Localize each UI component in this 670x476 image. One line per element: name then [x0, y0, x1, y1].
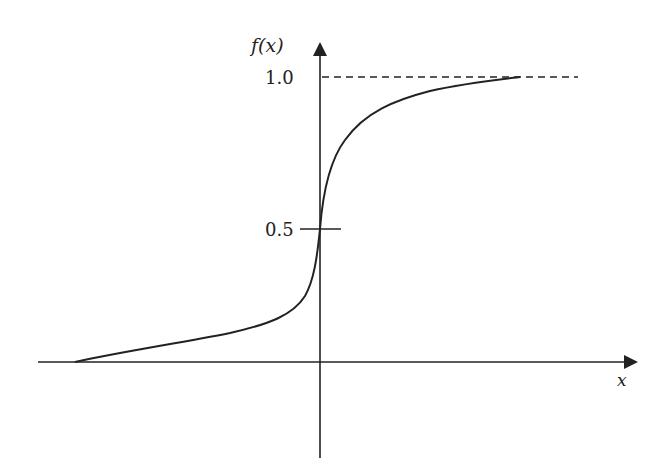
y-tick-label-0-5: 0.5: [265, 219, 294, 240]
plot-canvas: f(x) x 1.0 0.5: [0, 0, 670, 476]
y-tick-label-1-0: 1.0: [265, 67, 294, 88]
y-axis-label: f(x): [249, 34, 284, 56]
x-axis-label: x: [617, 370, 627, 390]
y-axis: [313, 42, 327, 458]
y-axis-arrow-icon: [313, 42, 327, 56]
x-axis-arrow-icon: [624, 355, 638, 369]
function-curve: [75, 77, 520, 362]
x-axis: [38, 355, 638, 369]
